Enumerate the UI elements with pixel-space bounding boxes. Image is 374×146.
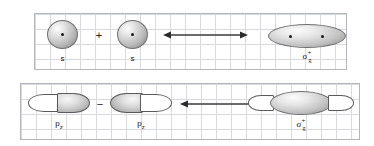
central-bonding-lobe	[270, 91, 332, 115]
label-pz-right: pz	[110, 119, 172, 128]
label-pz-left: pz	[28, 119, 90, 128]
label-sigma-s: σ+g	[277, 51, 337, 61]
p-lobe-gray	[110, 93, 143, 113]
orbital-s-left	[47, 20, 78, 49]
sigma-superscript: +	[301, 117, 305, 125]
label-s-right: s	[117, 54, 148, 63]
label-s-left: s	[47, 54, 78, 63]
sigma-superscript: +	[307, 49, 311, 57]
p-lobe-white	[140, 94, 172, 112]
p-lobe-gray	[57, 93, 90, 113]
p-subscript: z	[60, 124, 63, 130]
nucleus-dot	[61, 33, 64, 36]
orbital-pz-right	[110, 92, 172, 114]
sigma-subscript: g	[308, 57, 311, 63]
operator-plus: +	[90, 30, 108, 41]
nucleus-dot	[321, 35, 324, 38]
p-lobe-white	[28, 94, 60, 112]
molecular-orbital-sigma-s	[268, 24, 346, 48]
operator-minus: −	[92, 99, 108, 110]
orbital-pz-left	[28, 92, 90, 114]
label-sigma-pz: σ+g	[271, 119, 331, 129]
arrow-s-combination	[163, 30, 248, 40]
sigma-subscript: g	[302, 125, 305, 131]
outer-lobe-right	[328, 95, 354, 111]
p-subscript: z	[142, 124, 145, 130]
nucleus-dot	[289, 35, 292, 38]
orbital-s-right	[117, 20, 148, 49]
molecular-orbital-sigma-pz	[248, 90, 354, 116]
nucleus-dot	[131, 33, 134, 36]
